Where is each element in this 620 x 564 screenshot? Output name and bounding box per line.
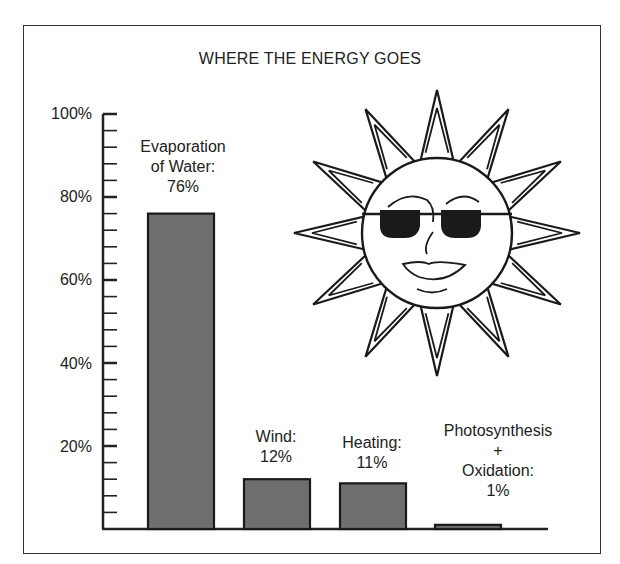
bar-label-evaporation: Evaporation of Water: 76% (118, 137, 248, 197)
bar (244, 479, 310, 529)
bar (435, 525, 501, 529)
bar-label-heating: Heating: 11% (322, 433, 422, 473)
sunglasses-right-lens (441, 210, 481, 238)
bar-label-photosynthesis: Photosynthesis + Oxidation: 1% (413, 421, 583, 501)
bar (148, 214, 214, 529)
sunglasses-left-lens (380, 210, 420, 238)
sun-icon (294, 90, 580, 376)
bar-label-wind: Wind: 12% (226, 427, 326, 467)
bar (340, 483, 406, 529)
